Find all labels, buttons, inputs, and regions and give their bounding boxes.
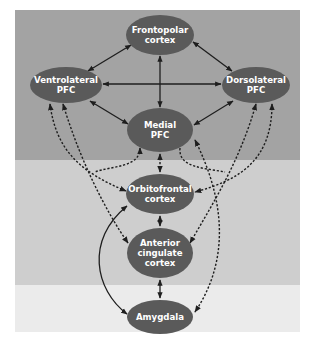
node-frontopolar-cortex: Frontopolarcortex — [126, 15, 194, 55]
node-medial-pfc: MedialPFC — [127, 108, 193, 152]
node-label: Amygdala — [136, 312, 184, 322]
node-ventrolateral-pfc: VentrolateralPFC — [30, 67, 102, 103]
node-orbitofrontal-cortex: Orbitofrontalcortex — [126, 174, 194, 214]
background-bands — [15, 10, 300, 332]
node-amygdala: Amygdala — [127, 300, 193, 334]
brain-network-diagram: Frontopolarcortex VentrolateralPFC Dorso… — [0, 0, 312, 346]
node-dorsolateral-pfc: DorsolateralPFC — [222, 67, 290, 103]
node-anterior-cingulate-cortex: Anteriorcingulatecortex — [127, 228, 193, 278]
